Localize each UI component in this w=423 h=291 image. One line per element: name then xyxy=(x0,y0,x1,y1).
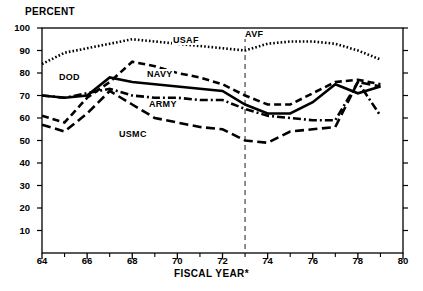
series-label-usmc: USMC xyxy=(118,129,148,139)
plot-frame xyxy=(42,28,403,253)
chart-root: PERCENT 102030405060708090100 6466687072… xyxy=(0,0,423,291)
series-line-usaf xyxy=(42,39,380,64)
series-label-navy: NAVY xyxy=(146,69,174,79)
x-axis-title: FISCAL YEAR* xyxy=(0,268,423,279)
series-label-army: ARMY xyxy=(148,99,178,109)
avf-annotation-label: AVF xyxy=(244,29,264,39)
series-label-dod: DOD xyxy=(58,72,81,82)
plot-canvas xyxy=(0,0,423,291)
series-label-usaf: USAF xyxy=(172,35,200,45)
